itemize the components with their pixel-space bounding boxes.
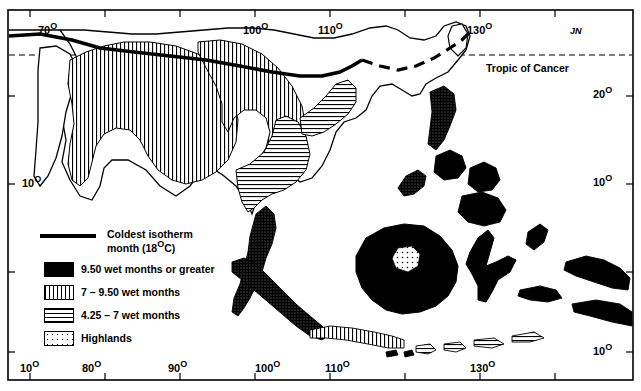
legend-item-highlands: Highlands xyxy=(44,331,132,346)
axis-label-right-10: 10O xyxy=(593,174,612,188)
legend-label-highlands: Highlands xyxy=(81,332,132,344)
legend-label-7-950: 7 – 9.50 wet months xyxy=(81,286,180,298)
figure-note: JN xyxy=(570,26,582,36)
axis-label-top-130: 130O xyxy=(467,22,492,36)
axis-label-bottom-130: 130O xyxy=(470,360,495,374)
region-philippines-luzon xyxy=(428,86,456,150)
legend-swatch-sparse-dots xyxy=(44,331,74,346)
legend-item-7-950: 7 – 9.50 wet months xyxy=(44,285,180,300)
legend-swatch-dense-stipple xyxy=(44,262,74,277)
legend-label-950-plus: 9.50 wet months or greater xyxy=(81,263,215,275)
lesser-sunda-chain xyxy=(386,332,544,357)
axis-label-right-20: 20O xyxy=(593,86,612,100)
region-philippines-mindanao xyxy=(458,192,506,226)
region-seram xyxy=(518,286,562,302)
region-new-guinea-west xyxy=(564,256,630,290)
region-halmahera xyxy=(526,224,548,250)
legend-swatch-vertical-lines xyxy=(44,285,74,300)
axis-label-top-100: 100O xyxy=(243,22,268,36)
axis-label-bottom-90: 90O xyxy=(168,360,187,374)
axis-label-right-0: 0O xyxy=(599,262,612,276)
legend-item-isotherm: Coldest isotherm month (18OC) xyxy=(44,228,193,254)
axis-label-bottom-100: 100O xyxy=(255,360,280,374)
axis-label-right-10-south: 10O xyxy=(593,343,612,357)
map-figure: JN Tropic of Cancer 70O 100O 110O 130O 1… xyxy=(0,0,641,391)
axis-label-bottom-80: 80O xyxy=(82,360,101,374)
region-philippines-palawan xyxy=(398,170,426,196)
axis-label-top-70: 70O xyxy=(38,22,57,36)
region-950-plus-sulawesi xyxy=(466,230,516,302)
axis-label-left-10: 10O xyxy=(22,175,41,189)
region-philippines-mid xyxy=(434,150,466,180)
region-new-guinea-south xyxy=(572,300,632,326)
legend-label-425-7: 4.25 – 7 wet months xyxy=(81,309,180,321)
axis-label-top-110: 110O xyxy=(318,22,343,36)
tropic-of-cancer-label: Tropic of Cancer xyxy=(486,62,569,74)
region-950-plus-java xyxy=(310,326,404,348)
region-philippines-visayas xyxy=(468,162,500,192)
legend-label-isotherm: Coldest isotherm month (18OC) xyxy=(107,228,193,254)
legend-item-950-plus: 9.50 wet months or greater xyxy=(44,262,215,277)
axis-label-bottom-10: 10O xyxy=(20,360,39,374)
axis-label-bottom-110: 110O xyxy=(325,360,350,374)
legend-swatch-horizontal-lines xyxy=(44,308,74,323)
legend-item-425-7: 4.25 – 7 wet months xyxy=(44,308,180,323)
